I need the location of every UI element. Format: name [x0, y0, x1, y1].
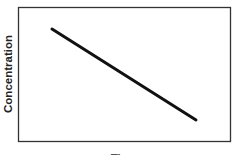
- y-axis-label: Concentration: [2, 35, 14, 113]
- x-axis-label: Time: [111, 152, 138, 155]
- line-chart: Concentration Time: [0, 0, 233, 155]
